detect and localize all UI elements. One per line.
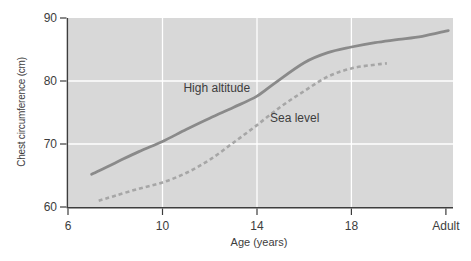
x-tick-label: 10	[156, 219, 170, 233]
x-tick-label: Adult	[432, 219, 460, 233]
x-axis-title: Age (years)	[231, 236, 288, 248]
y-tick-label: 60	[44, 200, 58, 214]
plot-area	[68, 18, 453, 207]
y-axis-title: Chest circumference (cm)	[16, 57, 27, 167]
y-tick-label: 80	[44, 74, 58, 88]
x-tick-label: 6	[65, 219, 72, 233]
series-label-sea-level: Sea level	[270, 111, 319, 125]
y-tick-label: 70	[44, 137, 58, 151]
series-label-high-altitude: High altitude	[183, 81, 250, 95]
x-tick-label: 14	[250, 219, 264, 233]
x-tick-label: 18	[345, 219, 359, 233]
chart-canvas: 607080906101418Adult Age (years) Chest c…	[0, 0, 471, 261]
y-tick-label: 90	[44, 11, 58, 25]
chart-figure: 607080906101418Adult Age (years) Chest c…	[0, 0, 471, 261]
